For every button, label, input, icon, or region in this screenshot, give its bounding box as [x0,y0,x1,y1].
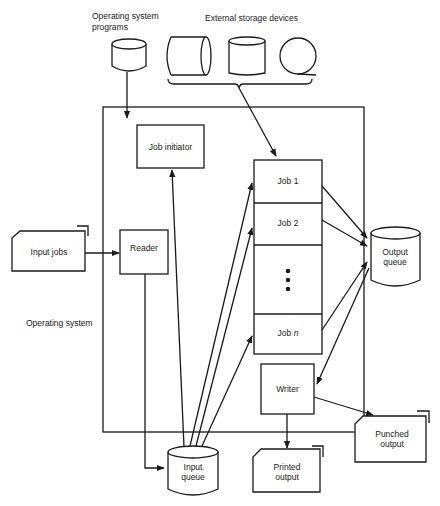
tape-reel-icon [280,38,316,75]
diagram-canvas: Operating system programs External stora… [0,0,440,506]
os-programs-label-line2: programs [92,22,128,32]
printed-output-label-line1: Printed [274,462,301,472]
input-jobs-label: Input jobs [31,247,68,257]
job-column [254,160,322,354]
arrow-input-queue-to-job1 [190,183,252,446]
arrow-jobn-to-output-queue [322,262,367,330]
output-queue-label-line1: Output [382,247,408,257]
arrow-input-queue-to-initiator [172,170,184,447]
arrow-reader-to-input-queue [145,274,164,468]
writer-label: Writer [276,384,299,394]
reader-label: Reader [130,243,158,253]
vertical-disk-icon [229,37,265,75]
os-programs-cylinder-icon [112,39,146,71]
punched-output-label-line1: Punched [375,429,409,439]
ellipsis-dots-icon [286,269,291,292]
job1-label: Job 1 [278,176,299,186]
input-queue-label-line2: queue [181,472,205,482]
os-programs-label-line1: Operating system [92,11,159,21]
external-storage-label: External storage devices [205,13,298,23]
output-queue-label-line2: queue [383,257,407,267]
arrow-input-queue-to-job2 [196,228,252,446]
punched-output-label-line2: output [380,439,404,449]
jobn-label: Job n [278,328,299,338]
horizontal-disk-icon [167,37,211,75]
input-queue-label-line1: Input [184,462,204,472]
printed-output-label-line2: output [275,472,299,482]
job-initiator-label: Job initiator [149,142,193,152]
storage-group-brace [168,79,312,88]
arrow-job2-to-output-queue [322,220,367,246]
arrow-storage-to-job1 [239,88,276,156]
arrow-job1-to-output-queue [322,186,367,238]
operating-system-label: Operating system [26,318,93,328]
job2-label: Job 2 [278,218,299,228]
